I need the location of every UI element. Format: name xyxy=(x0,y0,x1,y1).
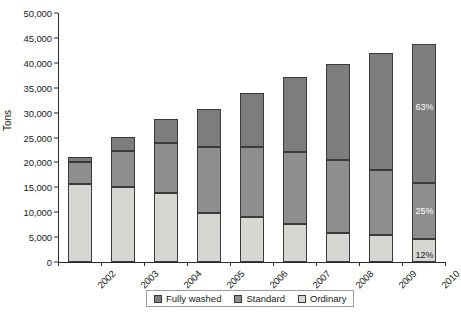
y-axis-tick-mark xyxy=(54,187,58,188)
plot-area: 05,00010,00015,00020,00025,00030,00035,0… xyxy=(58,13,445,262)
bar-segment-2008-fully-washed xyxy=(326,64,350,160)
y-axis-tick-mark xyxy=(54,87,58,88)
x-axis-tick-mark xyxy=(144,262,145,266)
x-axis-tick-mark xyxy=(273,262,274,266)
y-axis-tick-mark xyxy=(54,237,58,238)
y-axis-tick-mark xyxy=(54,212,58,213)
legend-item-fully-washed[interactable]: Fully washed xyxy=(154,293,221,304)
bar-2008 xyxy=(326,13,350,262)
bar-segment-2005-ordinary xyxy=(197,213,221,262)
bar-2007 xyxy=(283,13,307,262)
x-axis-label-2003: 2003 xyxy=(138,268,160,290)
bar-segment-2009-ordinary xyxy=(369,235,393,262)
y-axis-tick-label: 10,000 xyxy=(24,207,58,218)
bar-2005 xyxy=(197,13,221,262)
bar-segment-2002-standard xyxy=(68,162,92,184)
y-axis-tick-label: 50,000 xyxy=(24,8,58,19)
bar-segment-2005-standard xyxy=(197,147,221,213)
x-axis-label-2004: 2004 xyxy=(181,268,203,290)
legend-swatch-icon xyxy=(234,295,242,303)
bar-segment-2007-fully-washed xyxy=(283,77,307,152)
x-axis-label-2006: 2006 xyxy=(267,268,289,290)
chart-legend: Fully washedStandardOrdinary xyxy=(146,290,354,307)
y-axis-tick-mark xyxy=(54,37,58,38)
y-axis-tick-mark xyxy=(54,62,58,63)
y-axis-tick-label: 15,000 xyxy=(24,182,58,193)
bar-segment-2010-fully-washed: 63% xyxy=(412,44,436,183)
x-axis-label-2005: 2005 xyxy=(224,268,246,290)
bar-segment-2005-fully-washed xyxy=(197,109,221,147)
bar-segment-2006-standard xyxy=(240,147,264,217)
segment-percent-label: 25% xyxy=(416,207,434,216)
bar-segment-2003-fully-washed xyxy=(111,137,135,151)
x-axis-tick-mark xyxy=(316,262,317,266)
legend-label: Ordinary xyxy=(310,293,346,304)
x-axis-tick-mark xyxy=(230,262,231,266)
bar-segment-2003-ordinary xyxy=(111,187,135,262)
legend-swatch-icon xyxy=(154,295,162,303)
bar-segment-2004-ordinary xyxy=(154,193,178,262)
y-axis-tick-label: 20,000 xyxy=(24,157,58,168)
bar-segment-2003-standard xyxy=(111,151,135,187)
bar-segment-2004-standard xyxy=(154,143,178,192)
x-axis-tick-mark xyxy=(445,262,446,266)
x-axis-line xyxy=(58,262,446,263)
segment-percent-label: 63% xyxy=(416,103,434,112)
legend-label: Fully washed xyxy=(166,293,221,304)
bar-2004 xyxy=(154,13,178,262)
bar-segment-2007-ordinary xyxy=(283,224,307,262)
bar-2002 xyxy=(68,13,92,262)
bar-segment-2009-standard xyxy=(369,170,393,234)
bar-segment-2007-standard xyxy=(283,152,307,224)
x-axis-tick-mark xyxy=(187,262,188,266)
bar-segment-2006-ordinary xyxy=(240,217,264,262)
legend-swatch-icon xyxy=(298,295,306,303)
bar-2010: 12%25%63% xyxy=(412,13,436,262)
segment-percent-label: 12% xyxy=(416,251,434,260)
x-axis-label-2007: 2007 xyxy=(310,268,332,290)
y-axis-tick-label: 40,000 xyxy=(24,57,58,68)
y-axis-tick-mark xyxy=(54,112,58,113)
y-axis-tick-mark xyxy=(54,162,58,163)
bar-segment-2009-fully-washed xyxy=(369,53,393,171)
x-axis-tick-mark xyxy=(101,262,102,266)
x-axis-label-2002: 2002 xyxy=(95,268,117,290)
y-axis-tick-mark xyxy=(54,13,58,14)
bar-segment-2008-standard xyxy=(326,160,350,233)
bar-segment-2010-ordinary: 12% xyxy=(412,239,436,262)
bar-segment-2002-ordinary xyxy=(68,184,92,262)
x-axis-label-2009: 2009 xyxy=(396,268,418,290)
bar-2009 xyxy=(369,13,393,262)
x-axis-tick-mark xyxy=(58,262,59,266)
bar-2006 xyxy=(240,13,264,262)
bar-segment-2010-standard: 25% xyxy=(412,183,436,239)
y-axis-tick-label: 25,000 xyxy=(24,132,58,143)
bar-2003 xyxy=(111,13,135,262)
y-axis-tick-mark xyxy=(54,137,58,138)
bar-segment-2006-fully-washed xyxy=(240,93,264,147)
x-axis-tick-mark xyxy=(402,262,403,266)
bar-segment-2002-fully-washed xyxy=(68,157,92,161)
x-axis-tick-mark xyxy=(359,262,360,266)
bar-segment-2004-fully-washed xyxy=(154,119,178,143)
legend-label: Standard xyxy=(246,293,285,304)
y-axis-tick-label: 30,000 xyxy=(24,107,58,118)
y-axis-tick-label: 45,000 xyxy=(24,32,58,43)
legend-item-ordinary[interactable]: Ordinary xyxy=(298,293,346,304)
y-axis-tick-label: 35,000 xyxy=(24,82,58,93)
y-axis-title: Tons xyxy=(2,110,13,131)
legend-item-standard[interactable]: Standard xyxy=(234,293,285,304)
x-axis-label-2010: 2010 xyxy=(439,268,461,290)
bar-segment-2008-ordinary xyxy=(326,233,350,262)
x-axis-label-2008: 2008 xyxy=(353,268,375,290)
